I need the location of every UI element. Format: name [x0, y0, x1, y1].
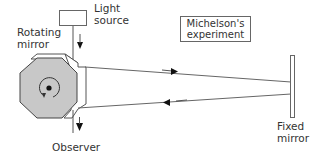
light-source-arrow-icon: [77, 42, 83, 49]
rotation-axle-icon: [46, 85, 51, 90]
diagram-title-line1: Michelson's: [187, 18, 245, 29]
fixed-mirror-label: Fixed mirror: [277, 121, 309, 144]
light-source-label: Light source: [94, 3, 129, 26]
diagram-canvas: [0, 0, 321, 163]
returning-arrow-icon: [163, 99, 170, 106]
rotating-mirror-label: Rotating mirror: [17, 27, 61, 50]
fixed-mirror-label-line1: Fixed: [277, 121, 309, 133]
observer-label: Observer: [52, 142, 100, 154]
light-source-box: [60, 11, 87, 26]
fixed-mirror: [291, 56, 295, 118]
rotating-mirror-label-line2: mirror: [17, 39, 61, 51]
light-source-label-line1: Light: [94, 3, 129, 15]
returning-ray: [78, 94, 291, 108]
rotating-mirror-label-line1: Rotating: [17, 27, 61, 39]
light-source-label-line2: source: [94, 15, 129, 27]
diagram-title-box: Michelson's experiment: [180, 16, 251, 42]
outgoing-ray: [85, 67, 291, 82]
outgoing-arrow-stem: [162, 70, 172, 71]
observer-arrow-icon: [76, 123, 83, 131]
diagram-title-line2: experiment: [187, 29, 244, 40]
fixed-mirror-label-line2: mirror: [277, 133, 309, 145]
observer-label-text: Observer: [52, 141, 100, 153]
michelson-diagram: Light source Rotating mirror Observer Fi…: [0, 0, 321, 163]
